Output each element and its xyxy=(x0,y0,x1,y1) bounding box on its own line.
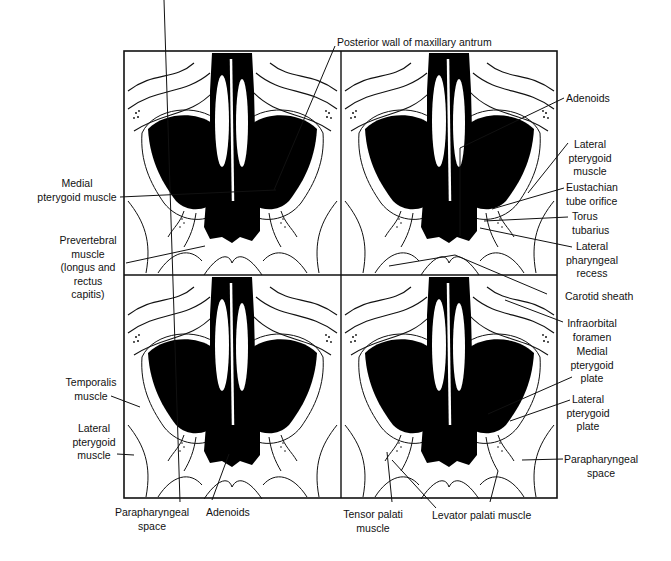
label-prevertebral-muscle: Prevertebral muscle (longus and rectus c… xyxy=(56,234,120,302)
label-carotid-sheath: Carotid sheath xyxy=(565,290,633,304)
label-parapharyngeal-space-right: Parapharyngeal space xyxy=(562,453,640,480)
label-lateral-pterygoid-muscle-bottom: Lateral pterygoid muscle xyxy=(68,422,120,463)
label-lateral-pharyngeal-recess: Lateral pharyngeal recess xyxy=(562,240,622,281)
label-adenoids-bottom: Adenoids xyxy=(206,506,250,520)
label-parapharyngeal-space-left: Parapharyngeal space xyxy=(114,506,190,533)
label-levator-palati-muscle: Levator palati muscle xyxy=(432,509,531,523)
panel-bottom-right xyxy=(345,277,554,499)
panel-top-right xyxy=(345,53,554,275)
label-lateral-pterygoid-plate: Lateral pterygoid plate xyxy=(562,393,614,434)
label-adenoids-top: Adenoids xyxy=(566,92,610,106)
panel-top-left xyxy=(128,53,337,275)
label-eustachian-tube-orifice: Eustachian tube orifice xyxy=(566,181,618,208)
label-medial-pterygoid-plate: Medial pterygoid plate xyxy=(566,345,618,386)
label-temporalis-muscle: Temporalis muscle xyxy=(62,376,120,403)
label-lateral-pterygoid-muscle-top: Lateral pterygoid muscle xyxy=(562,138,618,179)
label-posterior-wall-maxillary-antrum: Posterior wall of maxillary antrum xyxy=(337,36,492,50)
label-torus-tubarius: Torus tubarius xyxy=(572,210,609,237)
label-infraorbital-foramen: Infraorbital foramen xyxy=(564,317,620,344)
label-tensor-palati-muscle: Tensor palati muscle xyxy=(340,508,406,535)
label-medial-pterygoid-muscle: Medial pterygoid muscle xyxy=(32,177,122,204)
panel-bottom-left xyxy=(128,277,337,499)
